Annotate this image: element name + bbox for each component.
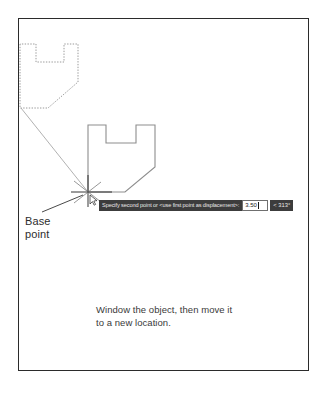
command-input-bar[interactable]: Specify second point or <use first point… (99, 200, 293, 211)
angle-field[interactable]: < 313° (270, 200, 293, 211)
distance-input[interactable]: 3.50 (242, 200, 268, 211)
distance-input-value: 3.50 (245, 200, 257, 211)
text-caret (258, 202, 259, 209)
base-point-label: Base point (25, 215, 50, 241)
figure-root: Base point Specify second point or <use … (0, 0, 330, 393)
figure-caption: Window the object, then move it to a new… (96, 303, 286, 329)
command-prompt-text: Specify second point or <use first point… (99, 200, 242, 211)
